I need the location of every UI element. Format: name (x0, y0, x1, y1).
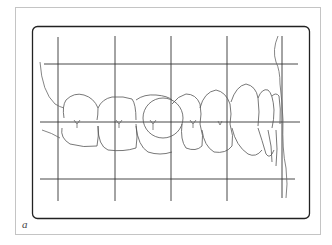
soft-tissue-outline (40, 36, 287, 198)
upper-teeth (63, 84, 280, 138)
dental-grid-figure: a (0, 0, 332, 245)
dental-grid-diagram (0, 0, 332, 245)
occlusal-cusp-marks (74, 120, 222, 130)
panel-label: a (22, 218, 28, 230)
outer-frame (16, 8, 321, 235)
lower-teeth (62, 124, 277, 166)
reference-grid (40, 36, 300, 201)
